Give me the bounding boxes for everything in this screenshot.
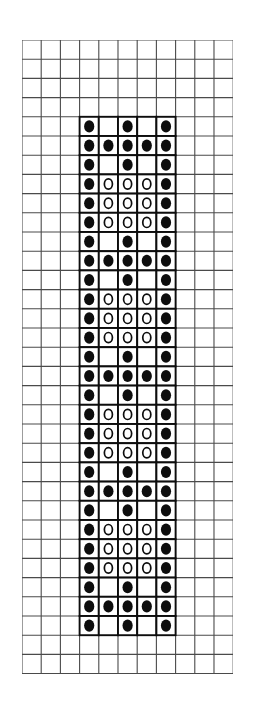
grid-svg <box>22 40 233 674</box>
chart-page <box>0 0 253 720</box>
graph-paper-grid <box>22 40 232 681</box>
